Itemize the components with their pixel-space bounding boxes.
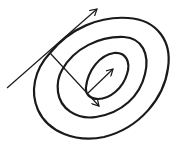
middle-contour: [58, 37, 147, 118]
contour-diagram: [0, 0, 178, 152]
inner-gradient-arrow: [88, 69, 113, 93]
outer-contour: [34, 18, 169, 139]
diagram-canvas: [0, 0, 178, 152]
inner-contour: [86, 53, 128, 99]
